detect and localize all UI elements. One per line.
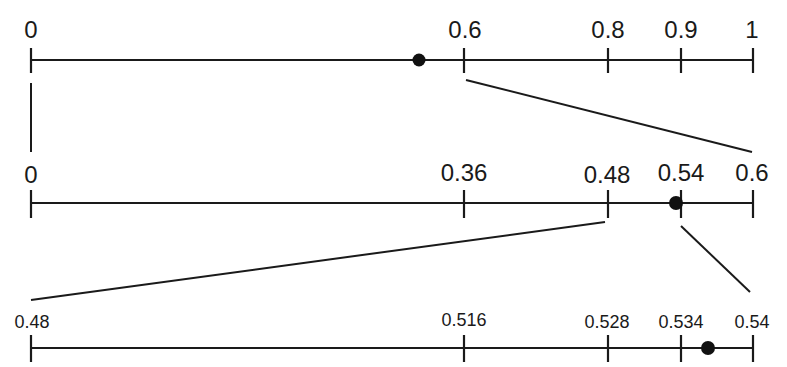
axis-2 xyxy=(31,190,753,218)
axis-2-label-0.36: 0.36 xyxy=(441,161,488,185)
axis-1-point xyxy=(413,54,426,67)
axis-2-label-0.48: 0.48 xyxy=(584,163,631,187)
axis-3-label-0.54: 0.54 xyxy=(734,313,769,331)
axis-3-label-0.516: 0.516 xyxy=(441,311,486,329)
axis-2-label-0: 0 xyxy=(24,163,37,187)
axis-2-point xyxy=(669,196,683,210)
axis-3 xyxy=(31,335,753,362)
axis-1-label-1: 1 xyxy=(745,18,758,42)
connector-2-left xyxy=(31,222,605,300)
connector-2-right xyxy=(681,226,750,292)
axis-3-label-0.48: 0.48 xyxy=(14,313,49,331)
axis-1-label-0.9: 0.9 xyxy=(664,18,697,42)
axis-3-label-0.534: 0.534 xyxy=(658,313,703,331)
axis-1 xyxy=(31,48,753,73)
axis-3-label-0.528: 0.528 xyxy=(584,313,629,331)
axis-1-label-0.6: 0.6 xyxy=(448,18,481,42)
axis-3-point xyxy=(701,341,715,355)
axis-1-label-0.8: 0.8 xyxy=(591,18,624,42)
connector-1-right xyxy=(466,80,752,152)
axis-2-label-0.54: 0.54 xyxy=(658,161,705,185)
axis-2-label-0.6: 0.6 xyxy=(735,161,768,185)
axis-1-label-0: 0 xyxy=(24,18,37,42)
